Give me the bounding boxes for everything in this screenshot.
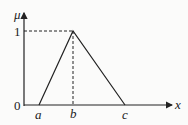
x-point-a: a [35, 108, 42, 121]
x-axis-label: x [175, 98, 181, 111]
y-axis-label: μ [14, 8, 21, 21]
y-tick-0: 0 [14, 99, 21, 112]
x-point-b: b [70, 107, 77, 120]
diagram-graphics [0, 0, 188, 125]
y-tick-1: 1 [14, 25, 21, 38]
triangle-function [39, 31, 125, 105]
x-point-c: c [122, 108, 128, 121]
membership-function-diagram: μ 1 0 a b c x [0, 0, 188, 125]
